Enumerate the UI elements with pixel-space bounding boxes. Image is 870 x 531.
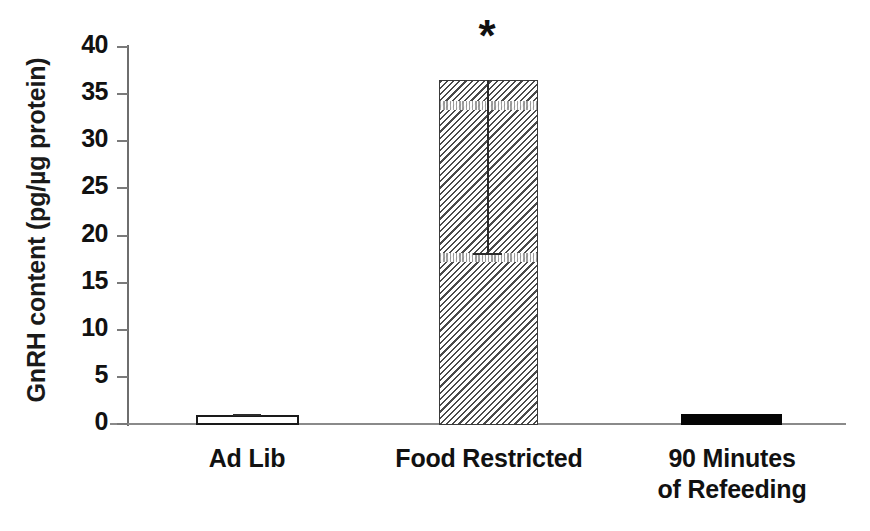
y-tick-mark-25 [117, 187, 128, 189]
y-tick-label-10: 10 [0, 313, 108, 342]
x-axis-label-food-restricted: Food Restricted [383, 443, 595, 474]
y-tick-mark-40 [117, 46, 128, 48]
bar-ad-lib[interactable] [196, 415, 299, 425]
y-tick-label-35: 35 [0, 77, 108, 106]
y-tick-label-0: 0 [0, 407, 108, 436]
x-axis-label-refeeding: 90 Minutes of Refeeding [637, 443, 827, 505]
y-tick-label-40: 40 [0, 30, 108, 59]
x-axis-label-refeeding-line2: of Refeeding [637, 474, 827, 505]
error-bar-cap-ad-lib [233, 414, 261, 416]
y-tick-mark-5 [117, 376, 128, 378]
y-tick-label-30: 30 [0, 124, 108, 153]
y-tick-mark-10 [117, 329, 128, 331]
significance-star: * [457, 14, 517, 58]
error-bar-stem-food-restricted [487, 80, 489, 255]
y-tick-label-20: 20 [0, 219, 108, 248]
y-tick-mark-0 [117, 423, 128, 425]
y-tick-mark-20 [117, 235, 128, 237]
x-axis-label-ad-lib: Ad Lib [167, 443, 327, 474]
y-tick-label-5: 5 [0, 360, 108, 389]
figure-root: GnRH content (pg/µg protein) 40 35 30 25… [0, 0, 870, 531]
x-axis-label-refeeding-line1: 90 Minutes [637, 443, 827, 474]
y-tick-label-25: 25 [0, 171, 108, 200]
cropped-caption-strip [0, 517, 870, 531]
y-tick-label-15: 15 [0, 266, 108, 295]
y-tick-mark-30 [117, 140, 128, 142]
y-tick-mark-35 [117, 93, 128, 95]
error-bar-cap-food-restricted [473, 253, 502, 255]
bar-refeeding[interactable] [681, 414, 782, 425]
y-tick-mark-15 [117, 282, 128, 284]
